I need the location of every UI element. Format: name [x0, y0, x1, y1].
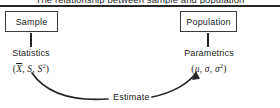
estimate-label: Estimate	[113, 92, 150, 102]
estimate-arrow-right-segment	[152, 73, 196, 97]
estimate-arrow-left-segment	[32, 73, 108, 99]
figure-relationship-sample-population: The relationship between sample and popu…	[0, 0, 280, 108]
